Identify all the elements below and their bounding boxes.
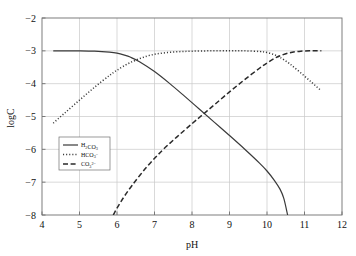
y-tick-label: −2 — [25, 13, 36, 24]
y-tick-label: −3 — [25, 45, 36, 56]
x-tick-label: 5 — [77, 219, 82, 230]
x-tick-label: 10 — [262, 219, 272, 230]
y-tick-label: −8 — [25, 210, 36, 221]
y-tick-label: −5 — [25, 111, 36, 122]
chart-background — [0, 0, 356, 256]
x-axis-title: pH — [186, 239, 198, 250]
x-tick-label: 11 — [300, 219, 310, 230]
legend: H2CO3HCO3−CO32− — [59, 137, 110, 170]
chart-figure: 456789101112 −2−3−4−5−6−7−8 pH logC H2CO… — [0, 0, 356, 256]
x-tick-label: 6 — [115, 219, 120, 230]
x-tick-label: 7 — [152, 219, 157, 230]
y-tick-label: −4 — [25, 78, 36, 89]
y-axis-title: logC — [5, 108, 16, 128]
y-tick-label: −6 — [25, 144, 36, 155]
x-tick-label: 8 — [190, 219, 195, 230]
x-tick-label: 9 — [227, 219, 232, 230]
x-tick-label: 12 — [337, 219, 347, 230]
carbonate-speciation-chart: 456789101112 −2−3−4−5−6−7−8 pH logC H2CO… — [0, 0, 356, 256]
y-tick-label: −7 — [25, 177, 36, 188]
x-tick-label: 4 — [40, 219, 45, 230]
